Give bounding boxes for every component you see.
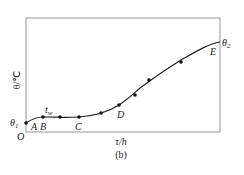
data-point: [99, 111, 103, 115]
data-point: [58, 115, 62, 119]
point-label-c: C: [75, 121, 82, 132]
chart: θ1 A B tw C D E θ2 O θ/℃ τ/h (b): [0, 0, 244, 175]
theta2-label: θ2: [222, 37, 231, 50]
point-label-a: A: [30, 121, 38, 132]
tw-label: tw: [45, 104, 53, 117]
data-point: [24, 121, 28, 125]
data-point: [117, 103, 121, 107]
data-point: [77, 115, 81, 119]
data-point: [147, 78, 151, 82]
figure-caption: (b): [115, 149, 127, 161]
point-label-b: B: [40, 121, 46, 132]
point-label-e: E: [209, 46, 216, 57]
data-point: [41, 115, 45, 119]
y-axis-label: θ/℃: [11, 71, 22, 90]
data-point: [133, 93, 137, 97]
theta1-label: θ1: [10, 117, 18, 130]
point-label-d: D: [116, 109, 125, 120]
x-axis-label: τ/h: [115, 136, 126, 147]
data-point: [179, 60, 183, 64]
origin-label: O: [17, 131, 24, 142]
